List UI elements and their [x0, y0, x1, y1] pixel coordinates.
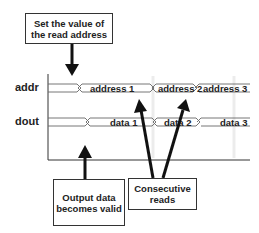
arrow-up-icon	[78, 145, 92, 158]
signal-label-addr: addr	[15, 81, 39, 93]
addr-value-3: address 3	[203, 83, 247, 94]
arrow-down-icon	[65, 64, 79, 76]
callout-output-data-valid: Output data becomes valid	[53, 179, 125, 226]
dout-value-3: data 3	[220, 117, 247, 128]
arrow-up-icon	[134, 99, 147, 113]
callout-consecutive-reads: Consecutive reads	[128, 178, 197, 210]
signal-label-dout: dout	[15, 115, 39, 127]
addr-value-1: address 1	[90, 83, 135, 94]
arrows	[65, 44, 190, 179]
addr-value-2: address 2	[158, 83, 202, 94]
arrow-up-icon	[177, 99, 190, 112]
dout-value-1: data 1	[110, 117, 138, 128]
callout-set-read-address: Set the value of the read address	[25, 13, 113, 44]
